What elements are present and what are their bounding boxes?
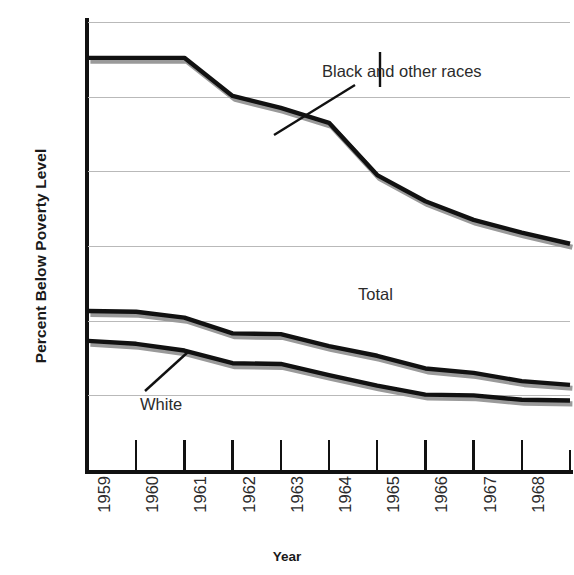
annotation-white: White <box>140 395 182 414</box>
annotation-black-and-other-races: Black and other races <box>322 62 482 81</box>
leader-black-and-other-races <box>274 85 355 135</box>
leader-white <box>145 352 188 391</box>
x-axis-title: Year <box>0 549 574 564</box>
annotation-total: Total <box>358 285 393 304</box>
y-axis-title: Percent Below Poverty Level <box>32 126 52 386</box>
chart-figure: Percent Below Poverty Level 010203040506… <box>0 0 574 575</box>
